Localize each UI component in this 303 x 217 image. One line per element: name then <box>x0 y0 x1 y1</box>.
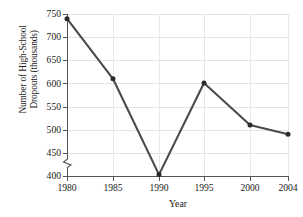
data-line <box>67 19 288 175</box>
dropouts-line-chart: Number of High-School Dropouts (thousand… <box>0 0 303 217</box>
data-point-2004 <box>286 132 291 137</box>
data-markers <box>65 16 291 177</box>
data-series-layer <box>0 0 303 217</box>
data-point-2000 <box>248 123 253 128</box>
data-point-1990 <box>157 172 162 177</box>
x-axis-title: Year <box>67 198 289 209</box>
data-point-1985 <box>111 76 116 81</box>
data-point-1995 <box>202 80 207 85</box>
data-point-1980 <box>65 16 70 21</box>
